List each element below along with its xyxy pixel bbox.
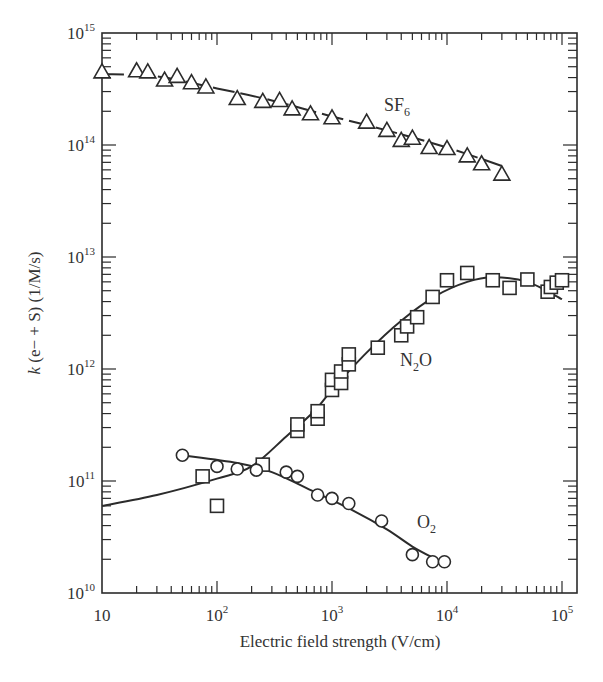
- x-tick-label: 105: [551, 603, 574, 625]
- o2-circle-marker: [312, 489, 324, 501]
- sf6-series-label: SF6: [384, 95, 410, 119]
- n2o-square-marker: [411, 311, 424, 324]
- sf6-triangle-marker: [404, 130, 420, 144]
- o2-circle-marker: [438, 556, 450, 568]
- sf6-triangle-marker: [272, 92, 288, 106]
- o2-label-text: O: [417, 512, 430, 532]
- y-tick-label: 1015: [67, 21, 96, 43]
- o2-circle-marker: [231, 463, 243, 475]
- n2o-square-marker: [371, 341, 384, 354]
- sf6-triangle-marker: [94, 64, 110, 78]
- y-tick-label: 1010: [67, 581, 96, 603]
- y-axis-title-rest: (e− + S) (1/M/s): [25, 251, 44, 367]
- o2-circle-marker: [211, 460, 223, 472]
- sf6-triangle-marker: [302, 106, 318, 120]
- n2o-square-marker: [441, 274, 454, 287]
- x-tick-label: 104: [436, 603, 459, 625]
- o2-circle-marker: [326, 492, 338, 504]
- o2-series-label: O2: [417, 512, 436, 536]
- o2-circle-marker: [291, 470, 303, 482]
- o2-circle-marker: [343, 497, 355, 509]
- sf6-label-text: SF: [384, 95, 404, 115]
- x-tick-label: 102: [206, 603, 229, 625]
- sf6-triangle-marker: [459, 148, 475, 162]
- rate-constant-chart: 10102103104105 101010111012101310141015 …: [0, 0, 603, 682]
- sf6-triangle-marker: [439, 141, 455, 155]
- sf6-triangle-marker: [229, 91, 245, 105]
- x-tick-label: 103: [321, 603, 344, 625]
- o2-label-sub: 2: [430, 522, 436, 536]
- n2o-square-marker: [291, 418, 304, 431]
- y-tick-label: 1013: [67, 245, 96, 267]
- n2o-square-marker: [311, 405, 324, 418]
- axis-ticks: [102, 33, 577, 593]
- n2o-square-marker: [196, 470, 209, 483]
- x-tick-label: 10: [94, 606, 111, 625]
- o2-circle-marker: [176, 449, 188, 461]
- x-axis-title: Electric field strength (V/cm): [240, 632, 441, 651]
- fit-curves: [102, 74, 562, 559]
- n2o-square-marker: [426, 290, 439, 303]
- n2o-label-o: O: [419, 350, 432, 370]
- n2o-square-marker: [486, 274, 499, 287]
- n2o-square-marker: [503, 281, 516, 294]
- y-tick-label: 1014: [67, 133, 96, 155]
- o2-circle-marker: [250, 464, 262, 476]
- sf6-triangle-marker: [140, 64, 156, 78]
- sf6-triangle-marker: [169, 68, 185, 82]
- n2o-square-marker: [461, 266, 474, 279]
- x-tick-labels: 10102103104105: [94, 603, 574, 625]
- y-tick-labels: 101010111012101310141015: [67, 21, 96, 603]
- n2o-square-marker: [342, 348, 355, 361]
- n2o-square-marker: [211, 499, 224, 512]
- y-tick-label: 1011: [67, 469, 95, 491]
- n2o-square-marker: [556, 274, 569, 287]
- n2o-square-marker: [521, 273, 534, 286]
- o2-circle-marker: [280, 466, 292, 478]
- y-tick-label: 1012: [67, 357, 95, 379]
- sf6-triangle-marker: [324, 110, 340, 124]
- sf6-triangle-marker: [494, 166, 510, 180]
- o2-circle-marker: [406, 549, 418, 561]
- n2o-label-n: N: [400, 350, 413, 370]
- y-axis-title: k (e− + S) (1/M/s): [25, 251, 44, 374]
- o2-circle-marker: [427, 556, 439, 568]
- plot-frame: [102, 33, 577, 593]
- o2-circle-marker: [376, 515, 388, 527]
- sf6-triangle-marker: [198, 79, 214, 93]
- sf6-label-sub: 6: [404, 105, 410, 119]
- sf6-triangle-marker: [359, 114, 375, 128]
- plot-border: [102, 33, 577, 593]
- n2o-series-label: N2O: [400, 350, 432, 374]
